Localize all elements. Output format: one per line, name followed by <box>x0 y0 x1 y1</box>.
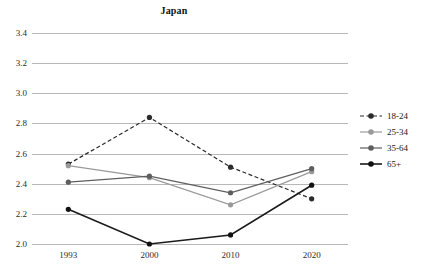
data-point <box>309 166 314 171</box>
y-tick-label: 2.2 <box>16 209 27 218</box>
data-point <box>228 232 233 237</box>
y-tick-label: 3.4 <box>16 29 27 38</box>
series-line <box>68 185 311 244</box>
legend-swatch-65-plus <box>358 157 384 171</box>
series-line <box>68 166 311 205</box>
legend: 18-2425-3435-6465+ <box>358 108 432 172</box>
data-point <box>147 174 152 179</box>
y-tick-label: 3.2 <box>16 59 27 68</box>
line-chart: Japan 2.02.22.42.62.83.03.23.4 199320002… <box>0 0 432 269</box>
x-tick-label: 2010 <box>222 251 240 260</box>
data-point <box>66 163 71 168</box>
chart-title: Japan <box>0 5 348 16</box>
legend-label-65-plus: 65+ <box>387 160 401 169</box>
plot-area: 2.02.22.42.62.83.03.23.4 199320002010202… <box>32 33 348 244</box>
series-group <box>32 33 348 244</box>
data-point <box>66 180 71 185</box>
data-point <box>228 190 233 195</box>
gridline <box>32 244 348 245</box>
series-line <box>68 169 311 193</box>
y-tick-label: 2.0 <box>16 240 27 249</box>
series-18-24 <box>66 115 315 202</box>
legend-item-65-plus[interactable]: 65+ <box>358 156 432 172</box>
legend-swatch-18-24 <box>358 109 384 123</box>
x-tick-label: 2000 <box>140 251 158 260</box>
legend-label-35-64: 35-64 <box>387 144 408 153</box>
legend-swatch-25-34 <box>358 125 384 139</box>
data-point <box>66 207 71 212</box>
y-tick-label: 2.6 <box>16 149 27 158</box>
data-point <box>309 196 314 201</box>
x-tick-label: 1993 <box>59 251 77 260</box>
legend-item-35-64[interactable]: 35-64 <box>358 140 432 156</box>
y-tick-label: 3.0 <box>16 89 27 98</box>
y-tick-label: 2.4 <box>16 179 27 188</box>
data-point <box>147 115 152 120</box>
legend-item-25-34[interactable]: 25-34 <box>358 124 432 140</box>
y-tick-label: 2.8 <box>16 119 27 128</box>
legend-label-18-24: 18-24 <box>387 112 408 121</box>
legend-item-18-24[interactable]: 18-24 <box>358 108 432 124</box>
series-65-plus <box>66 183 315 247</box>
data-point <box>228 202 233 207</box>
data-point <box>309 183 314 188</box>
x-tick-label: 2020 <box>303 251 321 260</box>
legend-label-25-34: 25-34 <box>387 128 408 137</box>
data-point <box>228 165 233 170</box>
legend-swatch-35-64 <box>358 141 384 155</box>
data-point <box>147 241 152 246</box>
series-25-34 <box>66 163 315 207</box>
